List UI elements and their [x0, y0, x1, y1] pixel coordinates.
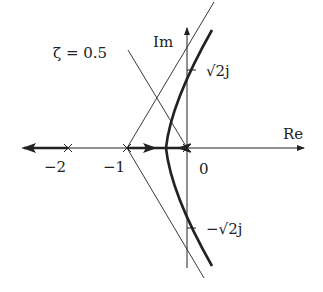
- real-axis-label: Re: [283, 125, 303, 143]
- root-locus-diagram: Im Re ζ = 0.5 −2 −1 0 √2j −√2j: [0, 0, 323, 292]
- damping-label: ζ = 0.5: [53, 44, 107, 62]
- tick-label-neg2: −2: [44, 158, 66, 176]
- asymptote-lower: [127, 148, 204, 278]
- imag-axis-label: Im: [153, 33, 173, 51]
- tick-label-zero: 0: [199, 160, 209, 178]
- tick-label-neg-sqrt2j: −√2j: [206, 220, 242, 238]
- tick-label-sqrt2j: √2j: [206, 62, 230, 80]
- tick-label-neg1: −1: [103, 158, 125, 176]
